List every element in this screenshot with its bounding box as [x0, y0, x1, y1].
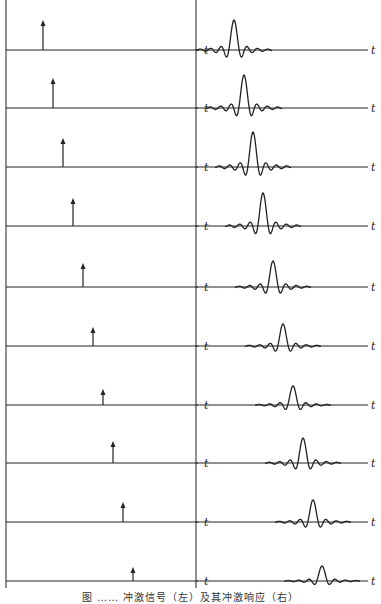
- t-axis-label: t: [371, 399, 376, 412]
- impulse-response-curve: [215, 132, 291, 175]
- t-axis-label: t: [371, 161, 376, 174]
- impulse-response-curve: [206, 75, 282, 116]
- impulse-arrowhead-icon: [61, 138, 66, 144]
- impulse-signal-column: tttttttttt: [6, 20, 209, 588]
- impulse-response-curve: [284, 566, 360, 585]
- t-axis-label: t: [371, 457, 376, 470]
- t-axis-label: t: [371, 575, 376, 588]
- t-axis-label: t: [371, 220, 376, 233]
- t-axis-label: t: [371, 281, 376, 294]
- t-axis-label: t: [371, 340, 376, 353]
- t-axis-label: t: [371, 102, 376, 115]
- figure-caption: 图 …… 冲激信号（左）及其冲激响应（右）: [0, 589, 381, 604]
- t-axis-label: t: [371, 44, 376, 57]
- t-axis-label: t: [371, 516, 376, 529]
- impulse-arrowhead-icon: [111, 441, 116, 447]
- figure-grid: [6, 0, 196, 588]
- impulse-arrowhead-icon: [121, 502, 126, 508]
- impulse-response-curve: [265, 438, 341, 469]
- impulse-arrowhead-icon: [41, 20, 46, 26]
- impulse-response-curve: [275, 500, 351, 527]
- impulse-response-curve: [255, 386, 331, 409]
- impulse-arrowhead-icon: [71, 198, 76, 204]
- impulse-response-curve: [235, 261, 311, 293]
- impulse-arrowhead-icon: [81, 263, 86, 269]
- impulse-arrowhead-icon: [51, 78, 56, 84]
- impulse-arrowhead-icon: [91, 327, 96, 333]
- impulse-response-column: tttttttttt: [196, 20, 376, 588]
- impulse-response-curve: [225, 193, 301, 234]
- impulse-response-curve: [245, 324, 321, 351]
- impulse-arrowhead-icon: [101, 389, 106, 395]
- impulse-arrowhead-icon: [131, 567, 136, 573]
